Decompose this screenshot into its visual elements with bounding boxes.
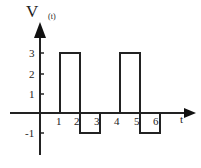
y-tick-label: -1 [25, 127, 34, 139]
x-tick-label: 4 [114, 115, 120, 127]
x-tick-label: 5 [134, 115, 140, 127]
x-tick-label: 1 [56, 115, 62, 127]
x-tick-label: 6 [153, 115, 159, 127]
y-tick-label: 1 [29, 88, 35, 100]
y-tick-label: 2 [29, 68, 35, 80]
x-tick-label: 3 [94, 115, 100, 127]
waveform-chart: V (t) t 3 2 1 -1 1 2 3 4 5 6 [0, 0, 201, 168]
y-tick-label: 3 [29, 47, 35, 59]
y-axis-label-sub: (t) [48, 12, 56, 21]
x-tick-label: 2 [74, 115, 80, 127]
x-axis-arrow-icon [184, 108, 196, 118]
y-axis-arrow-icon [34, 22, 46, 38]
x-axis-label: t [180, 113, 183, 125]
y-axis-label: V [26, 2, 39, 21]
